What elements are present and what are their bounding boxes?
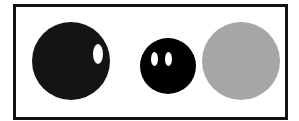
small-circle-left-eye: [151, 52, 158, 66]
small-circle-right-eye: [165, 52, 172, 66]
large-circle-eye-highlight: [93, 44, 103, 64]
small-black-circle-with-eyes: [140, 38, 196, 94]
gray-circle: [202, 22, 280, 100]
